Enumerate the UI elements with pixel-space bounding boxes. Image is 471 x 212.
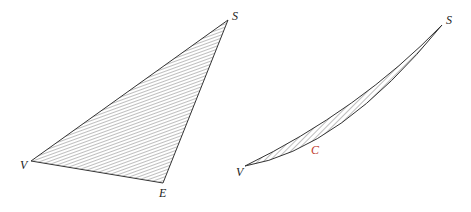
label-s-right: S (446, 13, 452, 28)
label-c: C (311, 143, 319, 158)
label-v-left: V (20, 158, 27, 173)
label-e: E (159, 186, 166, 201)
diagram-canvas (0, 0, 471, 212)
hatched-triangle (31, 20, 228, 183)
label-v-right: V (236, 165, 243, 180)
label-s-left: S (232, 9, 238, 24)
hatched-lens (245, 25, 442, 166)
